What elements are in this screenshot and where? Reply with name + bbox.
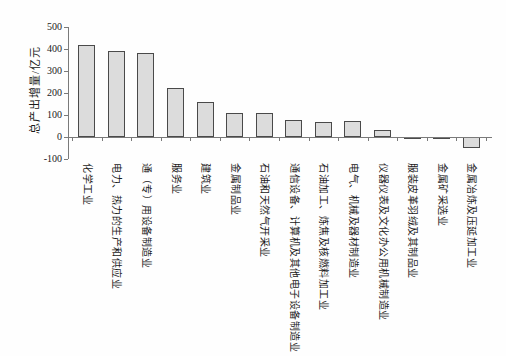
x-category-label-12: 服装皮革羽绒及其制品业: [406, 163, 418, 279]
y-tick-label: 300: [28, 65, 62, 77]
bar-8: [285, 120, 302, 137]
x-category-label-6: 金属制品业: [229, 163, 241, 216]
bar-3: [137, 53, 154, 137]
x-axis-line: [68, 137, 492, 138]
x-category-label-4: 服务业: [170, 163, 182, 195]
bar-11: [374, 130, 391, 137]
bar-chart: 总产出增量/亿元 5004003002001000-100 化学工业电力、热力的…: [0, 0, 506, 356]
bar-14: [463, 137, 480, 148]
x-category-label-7: 石油和天然气开采业: [258, 163, 270, 258]
y-axis-line: [68, 27, 69, 159]
bar-4: [167, 88, 184, 137]
y-tick-mark: [64, 159, 68, 160]
x-category-label-11: 仪器仪表及文化办公用机械制造业: [377, 163, 389, 321]
x-category-label-10: 电气、机械及器材制造业: [347, 163, 359, 279]
bar-6: [226, 113, 243, 137]
x-category-label-5: 建筑业: [199, 163, 211, 195]
bar-5: [197, 102, 214, 137]
bar-9: [315, 122, 332, 137]
y-tick-label: 400: [28, 43, 62, 55]
y-tick-label: 100: [28, 109, 62, 121]
x-category-label-14: 金属冶炼及压延加工业: [465, 163, 477, 268]
x-category-label-1: 化学工业: [81, 163, 93, 205]
y-tick-label: 0: [28, 131, 62, 143]
y-tick-label: -100: [28, 153, 62, 165]
y-tick-label: 500: [28, 21, 62, 33]
x-category-label-3: 通（专）用设备制造业: [140, 163, 152, 268]
x-category-label-13: 金属矿采选业: [436, 163, 448, 226]
x-category-label-8: 通信设备、计算机及其他电子设备制造业: [288, 163, 300, 352]
x-category-label-2: 电力、热力的生产和供应业: [110, 163, 122, 289]
x-category-label-9: 石油加工、炼焦及核燃料加工业: [317, 163, 329, 310]
bar-7: [256, 113, 273, 137]
bar-1: [78, 45, 95, 137]
y-tick-label: 200: [28, 87, 62, 99]
bar-2: [108, 51, 125, 137]
bar-10: [344, 121, 361, 137]
